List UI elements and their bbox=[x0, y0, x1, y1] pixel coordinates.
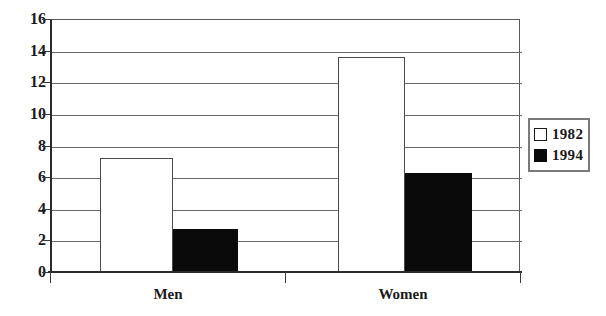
white-square-icon bbox=[534, 128, 547, 141]
legend-item-1982: 1982 bbox=[534, 124, 583, 145]
y-axis-label: 8 bbox=[2, 138, 46, 154]
y-axis-label: 2 bbox=[2, 232, 46, 248]
bar-chart: 16 14 12 10 8 6 4 2 0 bbox=[0, 0, 606, 316]
y-axis: 16 14 12 10 8 6 4 2 0 bbox=[0, 0, 46, 316]
x-axis-tick bbox=[285, 272, 286, 283]
y-axis-label: 12 bbox=[2, 74, 46, 90]
bar-men-1982 bbox=[100, 158, 173, 272]
bar-men-1994 bbox=[173, 229, 238, 272]
x-axis-label-women: Women bbox=[378, 286, 427, 303]
y-axis-label: 10 bbox=[2, 106, 46, 122]
legend-item-1994: 1994 bbox=[534, 145, 583, 166]
legend-label: 1994 bbox=[552, 148, 583, 163]
legend: 1982 1994 bbox=[528, 118, 590, 172]
y-axis-label: 6 bbox=[2, 169, 46, 185]
bar-women-1982 bbox=[338, 57, 405, 272]
y-axis-label: 4 bbox=[2, 201, 46, 217]
legend-label: 1982 bbox=[552, 127, 583, 142]
x-axis-label-men: Men bbox=[153, 286, 182, 303]
bars-layer bbox=[50, 19, 520, 272]
black-square-icon bbox=[534, 149, 547, 162]
y-axis-label: 16 bbox=[2, 11, 46, 27]
bar-women-1994 bbox=[405, 173, 472, 272]
y-axis-label: 14 bbox=[2, 43, 46, 59]
x-axis-tick bbox=[520, 272, 521, 283]
x-axis-tick bbox=[50, 272, 51, 283]
y-axis-label: 0 bbox=[2, 264, 46, 280]
